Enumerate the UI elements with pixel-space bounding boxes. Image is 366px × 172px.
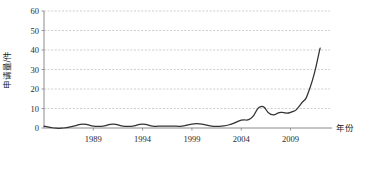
gridlines <box>44 11 330 109</box>
y-tick-label: 50 <box>31 26 40 36</box>
y-axis-title: 申请量/件 <box>2 51 12 90</box>
y-axis-ticks: 0102030405060 <box>31 6 45 133</box>
y-tick-label: 40 <box>31 45 40 55</box>
series-path <box>44 48 320 128</box>
x-tick-label: 2009 <box>282 134 299 144</box>
y-tick-label: 60 <box>31 6 40 16</box>
y-tick-label: 20 <box>31 84 40 94</box>
x-axis-ticks: 19891994199920042009 <box>85 128 299 144</box>
x-tick-label: 1989 <box>85 134 102 144</box>
y-tick-label: 0 <box>35 123 39 133</box>
data-series-line <box>44 48 320 128</box>
x-tick-label: 1994 <box>134 134 152 144</box>
chart-container: 0102030405060 19891994199920042009 年份 申请… <box>0 0 366 172</box>
x-tick-label: 2004 <box>233 134 251 144</box>
y-tick-label: 30 <box>31 65 40 75</box>
x-axis-title: 年份 <box>336 123 354 133</box>
x-tick-label: 1999 <box>183 134 200 144</box>
line-chart: 0102030405060 19891994199920042009 年份 申请… <box>0 0 366 172</box>
y-tick-label: 10 <box>31 104 40 114</box>
